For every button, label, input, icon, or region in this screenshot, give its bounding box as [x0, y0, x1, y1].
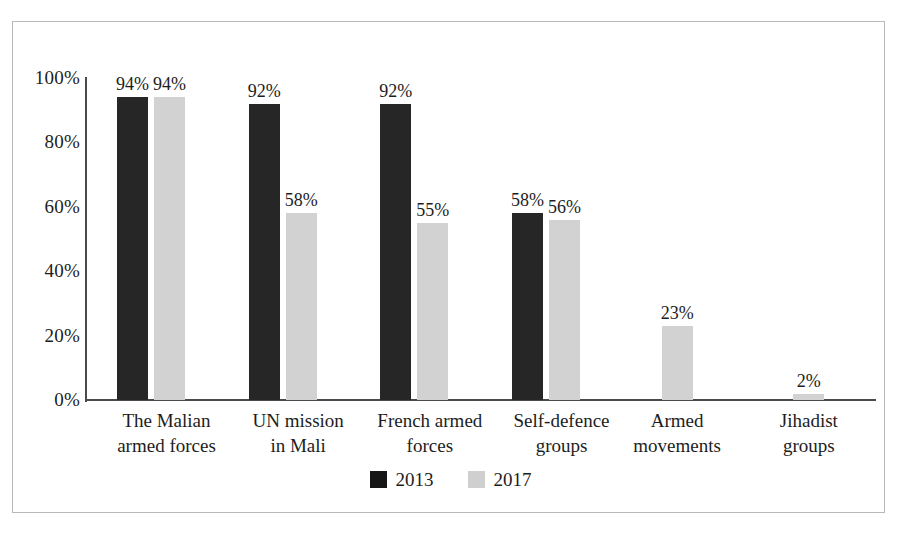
bar-value-label: 58% — [511, 191, 544, 209]
y-axis-tick-100: 100% — [8, 68, 80, 87]
y-axis-tick-labels: 0%20%40%60%80%100% — [0, 0, 80, 533]
bar-group: 23% — [613, 78, 745, 400]
bar-2017: 55% — [417, 223, 448, 400]
bar-value-label: 55% — [416, 201, 449, 219]
y-axis-tick-40: 40% — [8, 261, 80, 280]
y-axis-tick-0: 0% — [8, 390, 80, 409]
legend-swatch-icon — [370, 471, 387, 488]
chart-legend: 20132017 — [0, 470, 901, 489]
bar-group: 58%56% — [481, 78, 613, 400]
bar-group: 92%58% — [218, 78, 350, 400]
bar-value-label: 56% — [548, 198, 581, 216]
bar-value-label: 92% — [248, 82, 281, 100]
bar-2017: 58% — [286, 213, 317, 400]
figure-container: 0%20%40%60%80%100% 94%94%92%58%92%55%58%… — [0, 0, 901, 533]
bar-2013: 58% — [512, 213, 543, 400]
bar-2017: 2% — [793, 394, 824, 400]
bar-value-label: 94% — [116, 75, 149, 93]
bar-2017: 94% — [154, 97, 185, 400]
bar-value-label: 58% — [285, 191, 318, 209]
plot-area: 94%94%92%58%92%55%58%56%23%2% — [86, 78, 876, 400]
y-axis-tick-60: 60% — [8, 197, 80, 216]
bar-2013: 92% — [380, 104, 411, 400]
bar-value-label: 92% — [379, 82, 412, 100]
legend-item-2017: 2017 — [468, 470, 532, 489]
bar-value-label: 2% — [797, 372, 821, 390]
legend-item-2013: 2013 — [370, 470, 434, 489]
legend-label: 2017 — [494, 470, 532, 489]
bar-value-label: 94% — [153, 75, 186, 93]
legend-label: 2013 — [396, 470, 434, 489]
bar-2017: 56% — [549, 220, 580, 400]
bar-value-label: 23% — [661, 304, 694, 322]
y-axis-tick-80: 80% — [8, 132, 80, 151]
bar-2017: 23% — [662, 326, 693, 400]
bar-group: 2% — [744, 78, 876, 400]
bar-group: 94%94% — [86, 78, 218, 400]
y-axis-tick-20: 20% — [8, 326, 80, 345]
bar-2013: 92% — [249, 104, 280, 400]
bar-2013: 94% — [117, 97, 148, 400]
bar-group: 92%55% — [349, 78, 481, 400]
x-axis-category-label: Jihadist groups — [729, 408, 889, 458]
legend-swatch-icon — [468, 471, 485, 488]
